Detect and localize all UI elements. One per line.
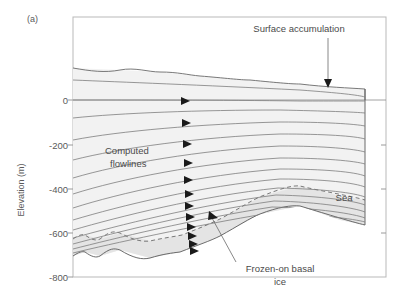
y-tick-label-4: -800: [49, 272, 68, 283]
y-tick-label-0: 0: [63, 95, 68, 106]
annotation-surface-accumulation: Surface accumulation: [253, 23, 344, 34]
annotation-computed-flowlines-line2: flowlines: [110, 158, 147, 169]
y-tick-label-1: -200: [49, 140, 68, 151]
annotation-frozen-basal-line2: ice: [274, 276, 286, 287]
annotation-frozen-basal-line1: Frozen-on basal: [246, 263, 315, 274]
cross-section-svg: (a) Elevation (m) 0 -200 -400 -600 -800: [0, 0, 408, 301]
panel-label: (a): [27, 14, 38, 24]
y-axis-ticks-left: [68, 100, 73, 277]
annotation-sea: Sea: [336, 192, 354, 203]
y-tick-label-3: -600: [49, 228, 68, 239]
y-axis-ticks-right: [381, 145, 386, 233]
y-tick-label-2: -400: [49, 184, 68, 195]
annotation-computed-flowlines-line1: Computed: [105, 145, 149, 156]
figure-panel: (a) Elevation (m) 0 -200 -400 -600 -800: [0, 0, 408, 301]
y-axis-title: Elevation (m): [16, 163, 26, 216]
